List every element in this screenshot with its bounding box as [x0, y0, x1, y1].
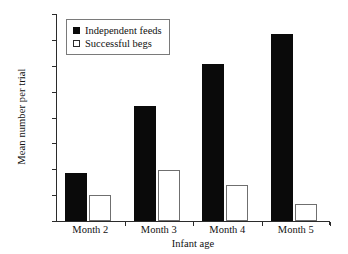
legend-item-label: Successful begs [85, 38, 152, 50]
y-axis-tick [52, 221, 56, 222]
x-axis-category-labels: Month 2Month 3Month 4Month 5 [56, 224, 330, 238]
y-axis-tick [52, 143, 56, 144]
bar-independent-feeds [65, 173, 87, 221]
y-axis-tick [52, 118, 56, 119]
x-axis-title: Infant age [56, 238, 330, 250]
y-axis-tick [52, 169, 56, 170]
bar-independent-feeds [134, 106, 156, 221]
x-axis-tick [330, 222, 331, 226]
x-axis-category-label: Month 4 [193, 224, 262, 236]
y-axis-tick [52, 92, 56, 93]
bar-successful-begs [226, 185, 248, 221]
y-axis-tick [52, 40, 56, 41]
y-axis-title: Mean number per trial [16, 22, 27, 212]
bar-independent-feeds [202, 64, 224, 221]
y-axis-tick [52, 14, 56, 15]
bar-independent-feeds [271, 34, 293, 221]
bar-chart-figure: Mean number per trial 00.511.522.533.54 … [0, 0, 348, 254]
bar-successful-begs [295, 204, 317, 221]
x-axis-category-label: Month 5 [262, 224, 331, 236]
x-axis-category-label: Month 3 [125, 224, 194, 236]
legend-item: Independent feeds [73, 24, 162, 37]
filled-square-icon [73, 27, 80, 34]
open-square-icon [73, 40, 80, 47]
bar-successful-begs [89, 195, 111, 221]
bar-successful-begs [158, 170, 180, 221]
legend-item-label: Independent feeds [85, 25, 162, 37]
chart-legend: Independent feedsSuccessful begs [66, 19, 170, 55]
y-axis-tick [52, 195, 56, 196]
y-axis-tick [52, 66, 56, 67]
x-axis-category-label: Month 2 [56, 224, 125, 236]
y-axis-line [56, 14, 57, 222]
legend-item: Successful begs [73, 37, 162, 50]
